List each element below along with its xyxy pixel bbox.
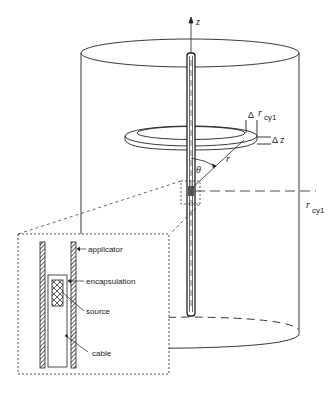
r-cyl-top-label: r [258, 107, 262, 118]
zoom-projection-lines [18, 181, 200, 234]
r-cyl-right-sub: cy1 [312, 206, 325, 215]
source-capsule [52, 280, 63, 306]
applicator-label: applicator [88, 245, 123, 254]
encapsulation-label: encapsulation [86, 277, 135, 286]
applicator-rod [187, 53, 195, 316]
delta-r-symbol: Δ [248, 110, 254, 120]
ring-annulus [125, 120, 271, 150]
applicator-wall-right [71, 242, 76, 368]
theta-label: θ [196, 164, 201, 175]
source-label: source [86, 307, 111, 316]
inset-detail: applicator encapsulation source cable [18, 234, 169, 374]
z-axis [189, 17, 193, 53]
r-label: r [226, 153, 230, 164]
cable-label: cable [92, 349, 112, 358]
r-cyl-top-sub: cy1 [264, 113, 277, 122]
z-axis-label: z [195, 16, 200, 27]
diagram-canvas: z Δ r cy1 Δ z θ r r cy1 [0, 0, 336, 393]
diagram-svg: z Δ r cy1 Δ z θ r r cy1 [0, 0, 336, 393]
delta-z-label: Δ z [272, 135, 285, 145]
r-cyl-right-label: r [306, 199, 310, 210]
applicator-wall-left [40, 242, 45, 368]
